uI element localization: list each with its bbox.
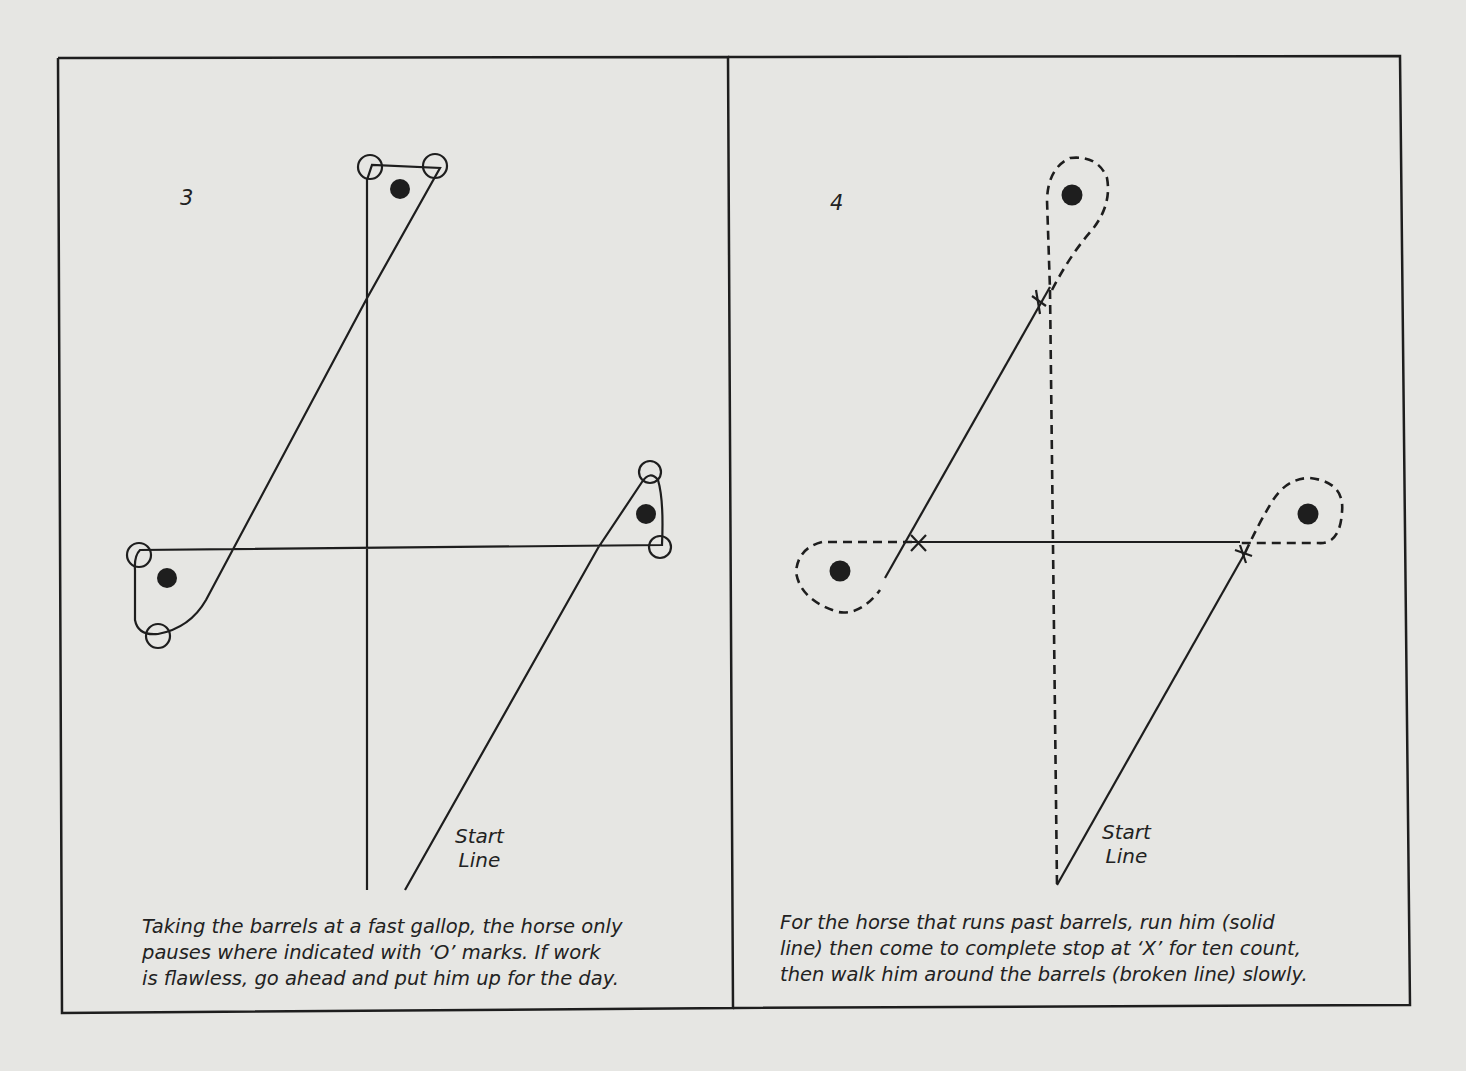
panel-4-caption: For the horse that runs past barrels, ru…: [780, 910, 1308, 988]
caption-line: then walk him around the barrels (broken…: [780, 962, 1308, 988]
panel-3-barrel-right: [636, 504, 656, 524]
panel-3-pause-mark: [146, 624, 170, 648]
start-label-line-2: Line: [1102, 844, 1151, 868]
panel-3-barrel-top: [390, 179, 410, 199]
panel-3-caption: Taking the barrels at a fast gallop, the…: [142, 914, 623, 992]
panel-3-diagram: [127, 154, 671, 890]
panel-3-pause-mark: [649, 536, 671, 558]
panel-4-stop-mark: [1032, 290, 1046, 314]
caption-line: line) then come to complete stop at ‘X’ …: [780, 936, 1308, 962]
panel-3-pause-mark: [127, 543, 151, 567]
left-panel-border: [58, 57, 733, 1013]
panel-3-start-label: Start Line: [455, 824, 504, 872]
panel-3-pause-mark: [358, 155, 382, 179]
panel-3-number: 3: [180, 186, 193, 210]
caption-line: Taking the barrels at a fast gallop, the…: [142, 914, 623, 940]
panel-4-run-diagonal: [885, 287, 1050, 578]
caption-line: is flawless, go ahead and put him up for…: [142, 966, 623, 992]
start-label-line-1: Start: [1102, 820, 1151, 844]
start-label-line-2: Line: [455, 848, 504, 872]
panel-4-barrel-top: [1062, 185, 1083, 206]
panel-4-stop-mark: [1235, 545, 1252, 563]
panel-4-start-label: Start Line: [1102, 820, 1151, 868]
panel-3-pause-mark: [423, 154, 447, 178]
panel-4-run-start: [1057, 553, 1245, 885]
panel-4-number: 4: [830, 191, 843, 215]
panel-4-walk-top-loop: [1047, 158, 1108, 290]
caption-line: For the horse that runs past barrels, ru…: [780, 910, 1308, 936]
panel-4-barrel-right: [1298, 504, 1319, 525]
start-label-line-1: Start: [455, 824, 504, 848]
panel-3-pause-mark: [639, 461, 661, 483]
panel-3-run-path: [135, 165, 663, 890]
caption-line: pauses where indicated with ‘O’ marks. I…: [142, 940, 623, 966]
panel-4-walk-right-loop: [1240, 478, 1342, 553]
panel-4-diagram: [796, 158, 1342, 885]
panel-4-walk-left-loop: [796, 542, 912, 613]
panel-3-barrel-left: [157, 568, 177, 588]
figure-frame: [58, 56, 1410, 1013]
panel-4-walk-vertical: [1050, 290, 1057, 885]
panel-4-barrel-left: [830, 561, 851, 582]
